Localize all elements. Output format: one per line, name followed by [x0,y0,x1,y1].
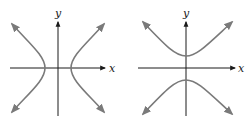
upper-branch-curve [143,22,232,56]
lower-branch-curve [143,80,232,114]
x-axis-label: x [109,62,116,75]
x-axis-label: x [238,62,245,75]
y-axis-label: y [182,7,190,20]
y-axis-label: y [54,7,62,20]
hyperbola-diagrams: x y x y [0,0,247,122]
right-panel: x y [138,7,245,116]
left-panel: x y [10,7,116,116]
